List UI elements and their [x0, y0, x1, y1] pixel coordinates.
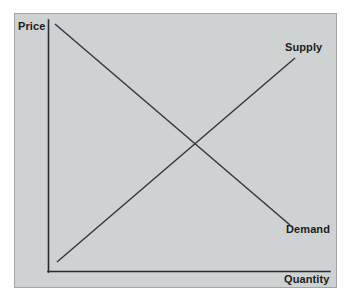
chart-panel	[14, 13, 337, 288]
demand-curve-label: Demand	[286, 223, 330, 236]
x-axis-label: Quantity	[284, 273, 329, 286]
y-axis-label: Price	[18, 20, 45, 33]
supply-curve-label: Supply	[285, 41, 322, 54]
supply-demand-figure: Price Supply Demand Quantity	[0, 0, 354, 301]
